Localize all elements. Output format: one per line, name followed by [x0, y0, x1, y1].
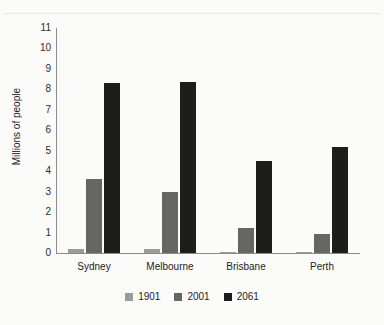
bar-group: Sydney [56, 28, 132, 253]
legend-swatch-icon [125, 293, 133, 301]
bar [180, 82, 196, 253]
y-tick-label: 6 [45, 125, 51, 135]
bar-group: Melbourne [132, 28, 208, 253]
legend-swatch-icon [224, 293, 232, 301]
x-axis-category-label: Sydney [56, 262, 132, 272]
legend-item[interactable]: 2001 [174, 292, 209, 302]
legend-item[interactable]: 1901 [125, 292, 160, 302]
y-tick-label: 3 [45, 187, 51, 197]
bar [256, 161, 272, 253]
bar [104, 83, 120, 253]
legend-swatch-icon [174, 293, 182, 301]
y-tick-label: 0 [45, 248, 51, 258]
y-tick-label: 7 [45, 105, 51, 115]
bar [144, 249, 160, 253]
x-axis-category-label: Melbourne [132, 262, 208, 272]
chart-page: Millions of people 01234567891011 Sydney… [0, 0, 384, 325]
legend-label: 2001 [187, 292, 209, 302]
plot-area: 01234567891011 SydneyMelbourneBrisbanePe… [56, 28, 360, 254]
legend-item[interactable]: 2061 [224, 292, 259, 302]
bar [86, 179, 102, 253]
y-tick-label: 4 [45, 166, 51, 176]
bar [332, 147, 348, 253]
y-tick-label: 5 [45, 146, 51, 156]
y-tick-label: 1 [45, 228, 51, 238]
x-axis-line [56, 253, 360, 254]
bar [238, 228, 254, 253]
legend-label: 1901 [138, 292, 160, 302]
bar [68, 249, 84, 253]
chart-legend: 190120012061 [0, 292, 384, 302]
bar [314, 234, 330, 253]
x-axis-category-label: Perth [284, 262, 360, 272]
y-axis-title: Millions of people [12, 88, 26, 165]
y-tick-label: 11 [41, 23, 51, 33]
legend-label: 2061 [237, 292, 259, 302]
bar [296, 252, 312, 253]
bar-group: Perth [284, 28, 360, 253]
x-axis-category-label: Brisbane [208, 262, 284, 272]
bar [162, 192, 178, 253]
y-tick-label: 9 [45, 64, 51, 74]
bar [220, 252, 236, 253]
y-tick-label: 10 [40, 43, 51, 53]
bar-group: Brisbane [208, 28, 284, 253]
y-tick-label: 2 [45, 207, 51, 217]
y-tick-label: 8 [45, 84, 51, 94]
top-divider-rule [4, 13, 380, 14]
